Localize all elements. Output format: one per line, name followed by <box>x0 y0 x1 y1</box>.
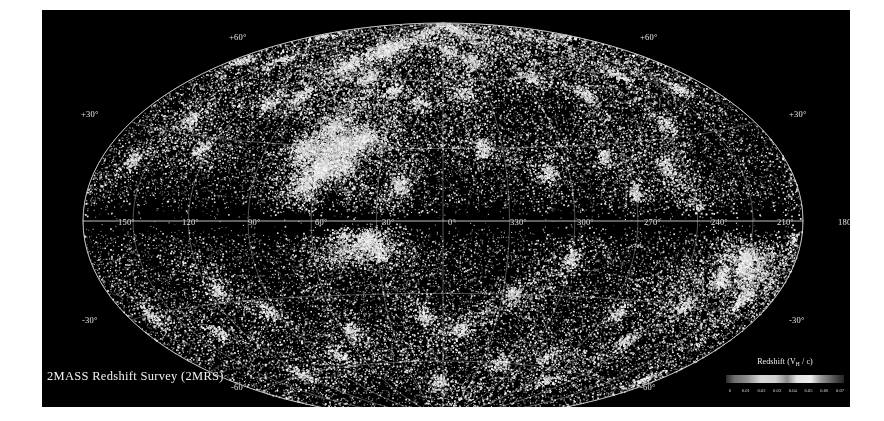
legend-title-end: / c) <box>800 357 813 366</box>
colorbar-tick-5: 0.05 <box>805 388 813 393</box>
redshift-legend: Redshift (VH / c) 00.010.020.030.040.050… <box>724 357 846 397</box>
legend-title: Redshift (VH / c) <box>724 357 846 367</box>
page-title: 2MASS Redshift Survey (2MRS) <box>47 369 224 384</box>
colorbar-tick-labels: 00.010.020.030.040.050.060.07 <box>726 388 844 397</box>
colorbar-gradient <box>726 375 844 383</box>
sky-map-figure: 150° 120° 90° 60° 30° 0° 330° 300° 270° … <box>42 10 850 407</box>
legend-title-main: Redshift (V <box>757 357 796 366</box>
colorbar-tick-4: 0.04 <box>789 388 797 393</box>
all-sky-scatter-canvas <box>42 10 850 407</box>
colorbar-tick-6: 0.06 <box>820 388 828 393</box>
colorbar-tick-0: 0 <box>729 388 731 393</box>
colorbar-tick-3: 0.03 <box>773 388 781 393</box>
colorbar-tick-7: 0.07 <box>836 388 844 393</box>
colorbar-tick-2: 0.02 <box>757 388 765 393</box>
colorbar-tick-1: 0.01 <box>742 388 750 393</box>
